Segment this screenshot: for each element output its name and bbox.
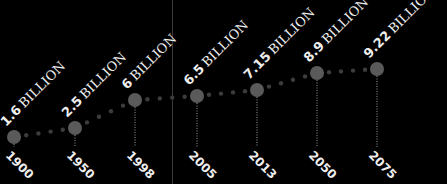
connector-dot	[327, 70, 331, 74]
data-point	[370, 62, 384, 76]
connector-dot	[170, 95, 174, 99]
connector-dot	[61, 128, 65, 132]
data-point	[310, 66, 324, 80]
connector-dot	[36, 131, 40, 135]
connector-dot	[219, 91, 223, 95]
data-point	[7, 130, 21, 144]
connector-dot	[339, 69, 343, 73]
data-point	[190, 89, 204, 103]
connector-dot	[267, 84, 271, 88]
data-point	[250, 83, 264, 97]
connector-dot	[85, 120, 89, 124]
connector-dot	[158, 96, 162, 100]
connector-dot	[109, 109, 113, 113]
connector-dot	[48, 129, 52, 133]
connector-dot	[97, 115, 101, 119]
connector-dot	[279, 81, 283, 85]
connector-dot	[121, 103, 125, 107]
connector-dot	[207, 93, 211, 97]
population-timeline-chart: 1.6BILLION19002.5BILLION19506BILLION1998…	[0, 0, 447, 184]
data-point	[68, 121, 82, 135]
connector-dot	[351, 68, 355, 72]
connector-dot	[243, 89, 247, 93]
connector-dot	[291, 78, 295, 82]
connector-dot	[303, 74, 307, 78]
data-point	[128, 93, 142, 107]
connector-dot	[182, 95, 186, 99]
connector-dot	[145, 97, 149, 101]
connector-dot	[24, 133, 28, 137]
connector-dot	[363, 68, 367, 72]
connector-dot	[231, 90, 235, 94]
